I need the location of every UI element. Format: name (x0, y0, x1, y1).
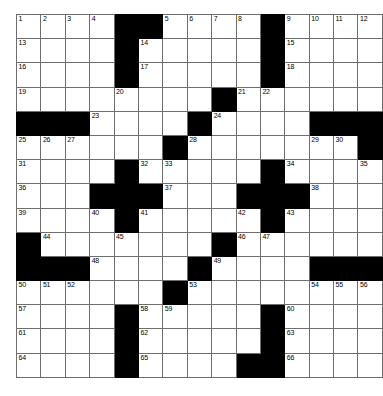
crossword-cell[interactable] (187, 329, 211, 353)
crossword-cell[interactable]: 1 (17, 15, 41, 39)
crossword-cell[interactable]: 57 (17, 305, 41, 329)
crossword-cell[interactable] (334, 232, 358, 256)
crossword-cell[interactable]: 51 (41, 281, 65, 305)
crossword-cell[interactable]: 7 (212, 15, 236, 39)
crossword-cell[interactable] (285, 111, 309, 135)
crossword-cell[interactable]: 2 (41, 15, 65, 39)
crossword-cell[interactable] (309, 305, 333, 329)
crossword-cell[interactable] (138, 87, 162, 111)
crossword-cell[interactable] (114, 111, 138, 135)
crossword-cell[interactable]: 50 (17, 281, 41, 305)
crossword-cell[interactable]: 17 (138, 63, 162, 87)
crossword-cell[interactable] (309, 160, 333, 184)
crossword-cell[interactable] (187, 208, 211, 232)
crossword-cell[interactable]: 12 (358, 15, 382, 39)
crossword-cell[interactable]: 36 (17, 184, 41, 208)
crossword-cell[interactable] (163, 39, 187, 63)
crossword-cell[interactable] (212, 184, 236, 208)
crossword-cell[interactable] (309, 329, 333, 353)
crossword-cell[interactable] (90, 135, 114, 159)
crossword-cell[interactable] (236, 160, 260, 184)
crossword-cell[interactable]: 49 (212, 256, 236, 280)
crossword-grid[interactable]: 1234567891011121314151617181920212223242… (16, 14, 383, 378)
crossword-cell[interactable] (65, 160, 89, 184)
crossword-cell[interactable]: 6 (187, 15, 211, 39)
crossword-cell[interactable] (236, 329, 260, 353)
crossword-cell[interactable]: 23 (90, 111, 114, 135)
crossword-cell[interactable] (358, 305, 382, 329)
crossword-cell[interactable] (260, 135, 284, 159)
crossword-cell[interactable] (65, 87, 89, 111)
crossword-cell[interactable] (41, 305, 65, 329)
crossword-cell[interactable]: 30 (334, 135, 358, 159)
crossword-cell[interactable] (41, 329, 65, 353)
crossword-cell[interactable]: 53 (187, 281, 211, 305)
crossword-cell[interactable] (236, 256, 260, 280)
crossword-cell[interactable]: 14 (138, 39, 162, 63)
crossword-cell[interactable] (212, 160, 236, 184)
crossword-cell[interactable] (187, 305, 211, 329)
crossword-cell[interactable]: 64 (17, 353, 41, 377)
crossword-cell[interactable] (114, 281, 138, 305)
crossword-cell[interactable] (90, 87, 114, 111)
crossword-cell[interactable]: 9 (285, 15, 309, 39)
crossword-cell[interactable] (212, 39, 236, 63)
crossword-cell[interactable]: 8 (236, 15, 260, 39)
crossword-cell[interactable] (90, 353, 114, 377)
crossword-cell[interactable] (309, 39, 333, 63)
crossword-cell[interactable]: 3 (65, 15, 89, 39)
crossword-cell[interactable] (41, 353, 65, 377)
crossword-cell[interactable] (236, 111, 260, 135)
crossword-cell[interactable]: 4 (90, 15, 114, 39)
crossword-cell[interactable]: 31 (17, 160, 41, 184)
crossword-cell[interactable]: 46 (236, 232, 260, 256)
crossword-cell[interactable] (309, 353, 333, 377)
crossword-cell[interactable]: 52 (65, 281, 89, 305)
crossword-cell[interactable] (285, 87, 309, 111)
crossword-cell[interactable]: 28 (187, 135, 211, 159)
crossword-cell[interactable] (212, 281, 236, 305)
crossword-cell[interactable] (358, 232, 382, 256)
crossword-cell[interactable] (41, 39, 65, 63)
crossword-cell[interactable] (41, 160, 65, 184)
crossword-cell[interactable] (334, 39, 358, 63)
crossword-cell[interactable] (212, 135, 236, 159)
crossword-cell[interactable]: 11 (334, 15, 358, 39)
crossword-cell[interactable]: 47 (260, 232, 284, 256)
crossword-cell[interactable]: 55 (334, 281, 358, 305)
crossword-cell[interactable] (285, 232, 309, 256)
crossword-cell[interactable] (65, 232, 89, 256)
crossword-cell[interactable]: 43 (285, 208, 309, 232)
crossword-cell[interactable]: 65 (138, 353, 162, 377)
crossword-cell[interactable]: 13 (17, 39, 41, 63)
crossword-cell[interactable] (334, 353, 358, 377)
crossword-cell[interactable]: 20 (114, 87, 138, 111)
crossword-cell[interactable] (65, 184, 89, 208)
crossword-cell[interactable] (41, 63, 65, 87)
crossword-cell[interactable]: 39 (17, 208, 41, 232)
crossword-cell[interactable]: 59 (163, 305, 187, 329)
crossword-cell[interactable] (65, 63, 89, 87)
crossword-cell[interactable] (90, 160, 114, 184)
crossword-cell[interactable] (41, 87, 65, 111)
crossword-cell[interactable] (358, 353, 382, 377)
crossword-cell[interactable] (260, 256, 284, 280)
crossword-cell[interactable]: 58 (138, 305, 162, 329)
crossword-cell[interactable]: 21 (236, 87, 260, 111)
crossword-cell[interactable]: 24 (212, 111, 236, 135)
crossword-cell[interactable] (65, 208, 89, 232)
crossword-cell[interactable] (358, 208, 382, 232)
crossword-cell[interactable] (90, 281, 114, 305)
crossword-cell[interactable] (358, 63, 382, 87)
crossword-cell[interactable] (285, 256, 309, 280)
crossword-cell[interactable] (163, 63, 187, 87)
crossword-cell[interactable]: 33 (163, 160, 187, 184)
crossword-cell[interactable] (163, 87, 187, 111)
crossword-cell[interactable] (163, 329, 187, 353)
crossword-cell[interactable]: 60 (285, 305, 309, 329)
crossword-cell[interactable] (212, 329, 236, 353)
crossword-cell[interactable] (138, 232, 162, 256)
crossword-cell[interactable] (90, 305, 114, 329)
crossword-cell[interactable]: 15 (285, 39, 309, 63)
crossword-cell[interactable] (163, 256, 187, 280)
